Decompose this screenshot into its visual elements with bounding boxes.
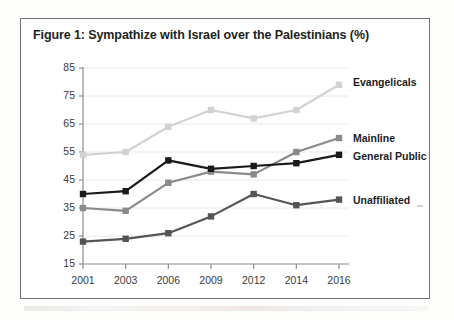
x-tick-label: 2012 xyxy=(236,274,272,286)
y-tick-label: 25 xyxy=(49,229,75,241)
x-tick-label: 2014 xyxy=(278,274,314,286)
x-tick-label: 2009 xyxy=(193,274,229,286)
x-tick-label: 2016 xyxy=(321,274,357,286)
chart-plot-area: 8575655545352515 20012003200620092012201… xyxy=(21,19,431,300)
y-tick-label: 55 xyxy=(49,145,75,157)
x-tick-label: 2003 xyxy=(108,274,144,286)
series-label-mainline: Mainline xyxy=(353,132,395,144)
scan-speck xyxy=(417,205,423,207)
series-label-evangelicals: Evangelicals xyxy=(353,76,417,88)
y-tick-label: 75 xyxy=(49,89,75,101)
series-mainline xyxy=(80,135,342,214)
y-tick-label: 45 xyxy=(49,173,75,185)
y-tick-label: 15 xyxy=(49,257,75,269)
y-tick-label: 85 xyxy=(49,61,75,73)
x-tick-label: 2001 xyxy=(65,274,101,286)
series-label-unaffiliated: Unaffiliated xyxy=(353,194,410,206)
series-label-general-public: General Public xyxy=(353,150,427,162)
y-tick-label: 65 xyxy=(49,117,75,129)
x-tick-label: 2006 xyxy=(150,274,186,286)
figure-frame: Figure 1: Sympathize with Israel over th… xyxy=(20,18,430,299)
series-evangelicals xyxy=(80,82,342,158)
y-tick-label: 35 xyxy=(49,201,75,213)
series-unaffiliated xyxy=(80,191,342,245)
